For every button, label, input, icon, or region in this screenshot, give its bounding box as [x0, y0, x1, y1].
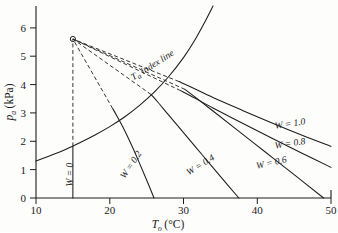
curve-w-0-4	[151, 95, 239, 199]
y-tick-label-1: 1	[21, 164, 27, 176]
curve-layer	[36, 6, 331, 198]
y-axis-title: pa(kPa)	[3, 83, 18, 121]
curve-w-1-0	[179, 82, 331, 147]
label-w-0-4: W = 0.4	[185, 152, 217, 177]
x-tick-label-40: 40	[252, 204, 264, 216]
y-tick-label-3: 3	[21, 107, 27, 119]
curve-label-layer: W = 1.0W = 0.8W = 0.6W = 0.4W = 0.2W = 0…	[65, 48, 306, 187]
x-axis-subscript: o	[158, 224, 162, 233]
y-tick-labels: 0 1 2 3 4 5 6	[21, 22, 27, 204]
label-t-index-line: Taindex line	[129, 48, 177, 84]
y-tick-label-4: 4	[21, 79, 27, 91]
y-axis-subscript: a	[9, 111, 18, 115]
svg-text:pa(kPa): pa(kPa)	[3, 83, 18, 121]
x-tick-label-20: 20	[104, 204, 116, 216]
chart-svg: 0 1 2 3 4 5 6 10 20 30 40 50 To(°C) pa(k…	[0, 0, 338, 232]
x-tick-label-10: 10	[31, 204, 43, 216]
label-w-0-6: W = 0.6	[255, 154, 288, 171]
x-axis-title: To(°C)	[152, 218, 185, 232]
x-axis-unit: (°C)	[164, 218, 184, 231]
curve-ta-index-line	[36, 6, 213, 161]
y-tick-label-5: 5	[21, 50, 27, 62]
x-tick-labels: 10 20 30 40 50	[31, 204, 338, 216]
y-ticks	[30, 28, 36, 198]
y-tick-label-2: 2	[21, 135, 27, 147]
label-w-0-8: W = 0.8	[274, 136, 306, 151]
psychrometric-chart-figure: 0 1 2 3 4 5 6 10 20 30 40 50 To(°C) pa(k…	[0, 0, 338, 232]
svg-text:To(°C): To(°C)	[152, 218, 185, 232]
curve-w-0-2-dashed	[73, 39, 113, 109]
y-tick-label-6: 6	[21, 22, 27, 34]
x-tick-label-50: 50	[326, 204, 338, 216]
curve-w-0-8-dashed	[73, 39, 181, 91]
label-w-1-0: W = 1.0	[274, 116, 306, 131]
y-axis-unit: (kPa)	[3, 83, 16, 108]
x-tick-label-30: 30	[178, 204, 190, 216]
label-w-0: W = 0	[65, 162, 75, 186]
y-tick-label-0: 0	[21, 192, 27, 204]
